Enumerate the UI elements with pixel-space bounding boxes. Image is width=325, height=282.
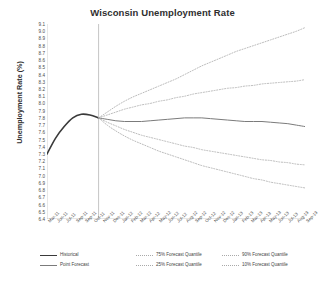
- series-layer: [47, 28, 305, 188]
- plot-svg: [47, 24, 305, 219]
- y-tick-label: 7.9: [39, 108, 45, 113]
- plot-area: [47, 24, 305, 219]
- legend-swatch-icon: [136, 262, 153, 267]
- y-tick-label: 8.4: [39, 72, 45, 77]
- legend-item[interactable]: 10% Forecast Quantile: [222, 262, 288, 267]
- y-axis-tick-labels: 9.19.08.98.88.78.68.58.48.38.28.18.07.97…: [24, 24, 45, 219]
- y-tick-label: 8.3: [39, 79, 45, 84]
- y-tick-label: 8.0: [39, 101, 45, 106]
- legend-swatch-icon: [222, 252, 239, 257]
- legend-swatch-icon: [136, 252, 153, 257]
- legend-swatch-icon: [222, 262, 239, 267]
- series-line: [99, 118, 305, 188]
- y-tick-label: 7.1: [39, 166, 45, 171]
- legend-item[interactable]: Historical: [40, 252, 79, 257]
- y-tick-label: 6.4: [39, 217, 45, 222]
- y-tick-label: 8.6: [39, 58, 45, 63]
- y-tick-label: 7.8: [39, 115, 45, 120]
- legend-swatch-icon: [40, 262, 57, 267]
- series-line: [99, 118, 305, 127]
- y-tick-label: 7.0: [39, 173, 45, 178]
- series-line: [99, 28, 305, 118]
- legend-item-label: 75% Forecast Quantile: [156, 252, 202, 257]
- chart-container: Wisconsin Unemployment Rate Unemployment…: [0, 0, 325, 282]
- series-line: [99, 118, 305, 165]
- y-tick-label: 8.8: [39, 43, 45, 48]
- y-tick-label: 8.7: [39, 50, 45, 55]
- y-tick-label: 9.0: [39, 29, 45, 34]
- legend-item[interactable]: 90% Forecast Quantile: [222, 252, 288, 257]
- y-tick-label: 7.2: [39, 159, 45, 164]
- page-title: Wisconsin Unemployment Rate: [0, 7, 325, 18]
- x-axis-tick-labels: Mar-11Jun-11Jul-11Sep-11Sep-11Oct-11Nov-…: [47, 220, 305, 248]
- legend-item[interactable]: 75% Forecast Quantile: [136, 252, 202, 257]
- y-tick-label: 7.6: [39, 130, 45, 135]
- y-tick-label: 6.8: [39, 188, 45, 193]
- y-tick-label: 6.5: [39, 209, 45, 214]
- legend-item-label: 90% Forecast Quantile: [242, 252, 288, 257]
- y-tick-label: 7.5: [39, 137, 45, 142]
- y-tick-label: 8.9: [39, 36, 45, 41]
- y-tick-label: 6.7: [39, 195, 45, 200]
- y-tick-label: 7.3: [39, 152, 45, 157]
- legend-item[interactable]: Point Forecast: [40, 262, 89, 267]
- legend-item-label: Historical: [60, 252, 79, 257]
- legend-item-label: Point Forecast: [60, 262, 89, 267]
- legend-item-label: 25% Forecast Quantile: [156, 262, 202, 267]
- chart-legend: HistoricalPoint Forecast75% Forecast Qua…: [40, 252, 320, 278]
- y-tick-label: 8.5: [39, 65, 45, 70]
- y-tick-label: 8.1: [39, 94, 45, 99]
- y-tick-label: 7.7: [39, 123, 45, 128]
- y-tick-label: 7.4: [39, 144, 45, 149]
- legend-swatch-icon: [40, 252, 57, 257]
- y-tick-label: 9.1: [39, 22, 45, 27]
- series-line: [47, 114, 99, 154]
- legend-item[interactable]: 25% Forecast Quantile: [136, 262, 202, 267]
- y-axis-title: Unemployment Rate (%): [15, 48, 24, 158]
- y-tick-label: 6.6: [39, 202, 45, 207]
- legend-item-label: 10% Forecast Quantile: [242, 262, 288, 267]
- y-tick-label: 8.2: [39, 87, 45, 92]
- y-tick-label: 6.9: [39, 180, 45, 185]
